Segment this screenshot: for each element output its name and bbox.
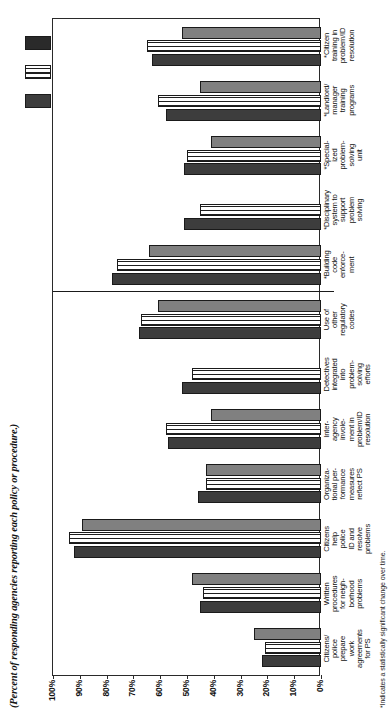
axis-tick-label: 40%: [208, 680, 217, 696]
bar: [182, 382, 321, 394]
category-label: Citizens/policeprepareworkagreementsfor …: [323, 621, 372, 676]
chart-footnote: *Indicates a statistically significant c…: [379, 551, 386, 708]
bar: [69, 532, 321, 544]
axis-tick-label: 50%: [182, 680, 191, 696]
axis-tick-label: 10%: [289, 680, 298, 696]
bar-group: [53, 456, 321, 511]
bar-group: [53, 347, 321, 402]
legend-swatch-series-2: [25, 65, 51, 79]
axis-tick-label: 100%: [48, 680, 57, 701]
bar-group: [53, 183, 321, 238]
bar: [200, 81, 321, 93]
bar: [149, 245, 321, 257]
category-label: *Landlord/managertrainingprograms: [323, 73, 356, 128]
category-label: *Citizentraining inproblem/IDresolution: [323, 18, 356, 73]
axis-tick-label: 80%: [101, 680, 110, 696]
axis-tick-label: 30%: [235, 680, 244, 696]
axis-tick-mark: [160, 675, 161, 679]
section-separator: [53, 291, 334, 292]
axis-tick-mark: [267, 675, 268, 679]
legend-item: [25, 60, 51, 79]
bar: [192, 573, 321, 585]
category-label-line: efforts: [364, 347, 372, 402]
axis-tick-label: 0%: [316, 680, 325, 692]
bar: [147, 40, 321, 52]
bar-group: [53, 566, 321, 621]
axis-tick-label: 90%: [74, 680, 83, 696]
bar-group: [53, 511, 321, 566]
category-label-line: problems: [356, 566, 364, 621]
axis-tick-mark: [133, 675, 134, 679]
axis-tick-mark: [53, 675, 54, 679]
bar: [211, 409, 321, 421]
axis-tick-mark: [214, 675, 215, 679]
bar: [200, 204, 321, 216]
category-label: *Buildingcodeenforce-ment: [323, 237, 356, 292]
category-label-line: ment: [348, 237, 356, 292]
category-label: *Special-izedproblem-solvingunit: [323, 128, 364, 183]
category-label: Use ofotherregulatorycodes: [323, 292, 356, 347]
category-label: CitizenshelppoliceID andresolveproblems: [323, 512, 372, 567]
axis-tick-label: 70%: [128, 680, 137, 696]
bar-group: [53, 402, 321, 457]
chart-subtitle: (Percent of responding agencies reportin…: [8, 424, 19, 708]
bar: [187, 150, 321, 162]
axis-tick-mark: [80, 675, 81, 679]
category-label-line: resolution: [348, 18, 356, 73]
axis-tick-mark: [187, 675, 188, 679]
bar: [254, 628, 321, 640]
bar: [206, 464, 321, 476]
legend-item: [25, 89, 51, 108]
category-label-line: programs: [348, 73, 356, 128]
bar: [117, 259, 321, 271]
category-label-line: reflect PS: [356, 457, 364, 512]
bar: [158, 300, 321, 312]
bar-group: [53, 620, 321, 675]
bar-group: [53, 74, 321, 129]
bar: [211, 136, 321, 148]
category-label: Writtenproceduresfor neigh-borhoodproble…: [323, 566, 364, 621]
bar: [184, 163, 321, 175]
category-label-line: resolution: [364, 402, 372, 457]
bar: [182, 27, 321, 39]
axis-tick-label: 20%: [262, 680, 271, 696]
axis-tick-label: 60%: [155, 680, 164, 696]
bar: [192, 368, 321, 380]
bar: [158, 95, 321, 107]
bar: [265, 642, 321, 654]
bar: [184, 218, 321, 230]
category-label: Inter-agencyinvole-ment inproblem/IDreso…: [323, 402, 372, 457]
category-label: Detectivesintegratedintoproblem-solvinge…: [323, 347, 372, 402]
bar: [82, 519, 321, 531]
bar-group: [53, 19, 321, 74]
bar: [203, 587, 321, 599]
legend-swatch-series-3: [25, 36, 51, 50]
axis-tick-mark: [241, 675, 242, 679]
bar-group: [53, 238, 321, 293]
bar: [198, 491, 321, 503]
axis-tick-mark: [107, 675, 108, 679]
category-label: *Disciplinarysystem tosupportproblemsolv…: [323, 183, 364, 238]
category-label-line: unit: [356, 128, 364, 183]
category-label-line: solving: [356, 183, 364, 238]
legend-swatch-series-1: [25, 94, 51, 108]
bar: [152, 54, 321, 66]
bar: [200, 601, 321, 613]
bar-group: [53, 128, 321, 183]
axis-tick-mark: [294, 675, 295, 679]
plot-wrapper: 0%10%20%30%40%50%60%70%80%90%100% Citize…: [52, 18, 334, 708]
bar: [166, 109, 321, 121]
plot-area: [52, 18, 320, 676]
bar: [74, 546, 321, 558]
category-label-line: codes: [348, 292, 356, 347]
bar: [168, 437, 321, 449]
rotated-figure-frame: (Percent of responding agencies reportin…: [0, 0, 391, 714]
category-label-line: for PS: [364, 621, 372, 676]
bar: [166, 423, 321, 435]
chart-legend: [25, 31, 51, 108]
bar: [141, 314, 321, 326]
bar: [206, 478, 321, 490]
category-label: Organiza-tional per-formancemeasuresrefl…: [323, 457, 364, 512]
value-axis-labels: 0%10%20%30%40%50%60%70%80%90%100%: [52, 678, 334, 708]
bar: [262, 655, 321, 667]
